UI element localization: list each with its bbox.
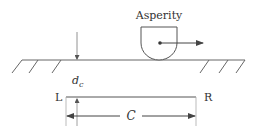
hatch-right — [200, 60, 245, 73]
depth-label: dc — [72, 74, 84, 89]
right-label: R — [204, 91, 213, 104]
asperity: Asperity — [135, 9, 203, 60]
length-label: C — [126, 109, 135, 123]
hatch-left — [12, 60, 61, 73]
asperity-label: Asperity — [135, 9, 183, 22]
left-label: L — [55, 91, 63, 104]
surface — [12, 60, 245, 73]
asperity-diagram: Asperity dc L R C — [0, 0, 258, 131]
length-bar: L R C — [55, 91, 213, 126]
